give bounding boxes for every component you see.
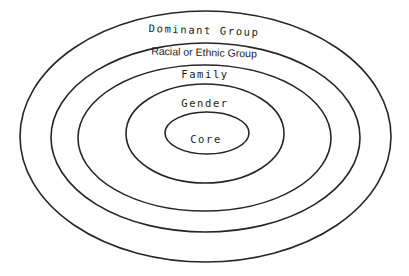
gender-label: Gender: [181, 97, 229, 109]
core-label: Core: [190, 133, 222, 145]
family-label: Family: [181, 68, 229, 80]
racial-label: Racial or Ethnic Group: [151, 45, 257, 60]
dominant-label: Dominant Group: [149, 22, 260, 38]
diagram-canvas: Dominant GroupRacial or Ethnic GroupFami…: [0, 0, 409, 276]
concentric-identity-diagram: Dominant GroupRacial or Ethnic GroupFami…: [0, 0, 409, 276]
